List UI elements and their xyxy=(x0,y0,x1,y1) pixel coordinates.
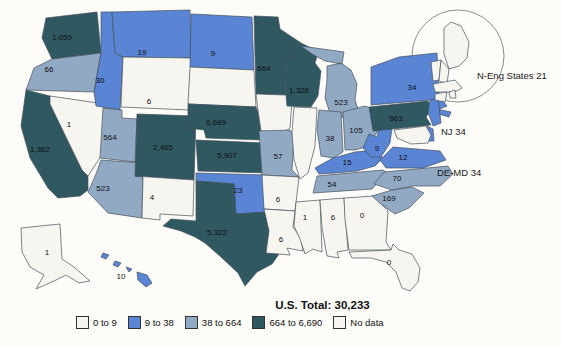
legend-label-4: No data xyxy=(350,317,383,328)
state-value-id: 30 xyxy=(96,76,105,85)
state-md: Maryland xyxy=(394,126,431,144)
state-value-sc: 169 xyxy=(382,194,396,203)
annotation-neng: N-Eng States 21 xyxy=(477,70,547,81)
state-value-wv: 9 xyxy=(375,144,380,153)
state-value-va: 12 xyxy=(399,153,408,162)
state-ar: Arkansas xyxy=(262,175,299,211)
state-value-ne: 6,689 xyxy=(206,118,227,127)
state-nd: North Dakota xyxy=(190,14,254,70)
legend-swatch-0 xyxy=(76,316,89,329)
state-value-la: 6 xyxy=(279,235,284,244)
legend-label-2: 38 to 664 xyxy=(202,317,242,328)
state-value-wa: 1,059 xyxy=(52,33,73,42)
state-sd: South Dakota xyxy=(188,67,256,107)
us-choropleth-map: WashingtonOregonCaliforniaNevadaIdahoMon… xyxy=(0,0,561,346)
state-value-mo: 57 xyxy=(274,152,283,161)
state-value-wi: 1,326 xyxy=(289,86,310,95)
state-value-ga: 0 xyxy=(360,211,365,220)
state-value-ca: 1,362 xyxy=(30,145,51,154)
legend-label-3: 664 to 6,690 xyxy=(269,317,322,328)
state-value-pa: 963 xyxy=(389,114,403,123)
state-ak: Alaska xyxy=(21,224,90,289)
state-value-ok: 23 xyxy=(234,186,243,195)
legend-label-1: 9 to 38 xyxy=(145,317,174,328)
legend-item-4: No data xyxy=(333,316,383,329)
legend-swatch-4 xyxy=(333,316,346,329)
state-value-nd: 9 xyxy=(211,49,216,58)
legend-item-3: 664 to 6,690 xyxy=(252,316,322,329)
state-value-nc: 70 xyxy=(393,174,402,183)
state-value-mn: 664 xyxy=(257,64,271,73)
state-me: Maine xyxy=(444,22,469,69)
legend-label-0: 0 to 9 xyxy=(93,317,117,328)
state-value-mt: 19 xyxy=(138,48,147,57)
state-value-ak: 1 xyxy=(45,248,50,257)
legend-item-0: 0 to 9 xyxy=(76,316,117,329)
state-value-ky: 15 xyxy=(343,158,352,167)
state-value-ut: 564 xyxy=(103,133,117,142)
legend-swatch-2 xyxy=(185,316,198,329)
state-value-mi: 523 xyxy=(334,98,348,107)
us-total-label: U.S. Total: 30,233 xyxy=(250,299,395,311)
state-value-az: 523 xyxy=(96,184,110,193)
state-mt: Montana xyxy=(112,10,191,58)
state-value-ms: 1 xyxy=(303,213,308,222)
state-hi: Hawaii xyxy=(101,253,152,287)
state-value-nm: 4 xyxy=(150,193,155,202)
state-value-co: 2,465 xyxy=(153,143,174,152)
state-value-tn: 54 xyxy=(328,180,337,189)
state-wy: Wyoming xyxy=(121,57,191,110)
map-legend: 0 to 99 to 3838 to 664664 to 6,690No dat… xyxy=(76,316,384,329)
state-value-oh: 105 xyxy=(349,126,363,135)
state-nm: New Mexico xyxy=(135,176,194,220)
state-fl: Florida xyxy=(349,244,420,291)
state-va: Virginia xyxy=(380,147,446,168)
legend-item-2: 38 to 664 xyxy=(185,316,242,329)
state-value-ks: 5,907 xyxy=(217,151,238,160)
state-value-al: 6 xyxy=(331,213,336,222)
state-value-wy: 6 xyxy=(147,97,152,106)
state-or: Oregon xyxy=(26,53,101,92)
state-value-nv: 1 xyxy=(67,120,72,129)
state-value-ny: 34 xyxy=(408,83,417,92)
state-ct: Connecticut xyxy=(435,92,447,102)
state-value-in: 38 xyxy=(326,134,335,143)
annotation-nj: NJ 34 xyxy=(441,126,466,137)
state-il: Illinois xyxy=(292,107,317,179)
legend-item-1: 9 to 38 xyxy=(128,316,174,329)
figure-us-choropleth: WashingtonOregonCaliforniaNevadaIdahoMon… xyxy=(0,0,561,346)
state-value-tx: 5,322 xyxy=(207,228,228,237)
legend-swatch-3 xyxy=(252,316,265,329)
state-al: Alabama xyxy=(320,198,348,258)
state-value-or: 66 xyxy=(45,65,54,74)
state-value-hi: 10 xyxy=(117,272,126,281)
state-value-fl: 0 xyxy=(387,258,392,267)
annotation-demd: DE-MD 34 xyxy=(437,167,481,178)
state-value-ar: 6 xyxy=(276,195,281,204)
legend-swatch-1 xyxy=(128,316,141,329)
